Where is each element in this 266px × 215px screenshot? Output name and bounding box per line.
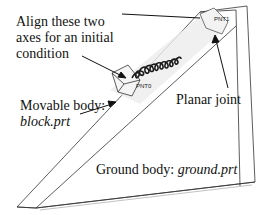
ground-body-annotation: Ground body: ground.prt [96,162,237,178]
ground-body-label: Ground body: [96,162,178,177]
ground-body-file: ground.prt [178,162,238,177]
pnt1-label: PNT1 [214,16,229,22]
planar-joint-annotation: Planar joint [176,92,241,108]
align-axes-line-3: condition [16,46,114,62]
movable-body-annotation: Movable body: block.prt [20,98,105,130]
align-axes-line-2: axes for an initial [16,30,114,46]
movable-body-file: block.prt [20,114,105,130]
align-axes-line-1: Align these two [16,14,114,30]
pnt0-label: PNT0 [136,83,151,89]
align-axes-annotation: Align these two axes for an initial cond… [16,14,114,62]
movable-body-label: Movable body: [20,98,105,114]
